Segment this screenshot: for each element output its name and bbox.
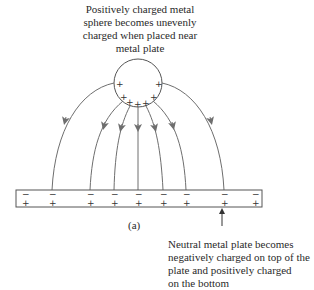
svg-text:+: +	[111, 198, 119, 208]
svg-text:+: +	[126, 97, 134, 107]
svg-text:+: +	[221, 198, 229, 208]
svg-text:+: +	[22, 198, 30, 208]
svg-text:+: +	[49, 198, 57, 208]
pointer-arrow	[219, 208, 225, 226]
svg-text:+: +	[252, 198, 260, 208]
svg-text:+: +	[87, 198, 95, 208]
svg-text:+: +	[155, 79, 163, 89]
caption-line: negatively charged on top of the	[168, 251, 314, 264]
caption-line: Neutral metal plate becomes	[168, 238, 314, 251]
svg-text:+: +	[183, 198, 191, 208]
svg-text:+: +	[150, 92, 158, 102]
plate-caption: Neutral metal plate becomes negatively c…	[168, 238, 314, 290]
figure-label: (a)	[128, 219, 140, 232]
svg-text:+: +	[160, 198, 168, 208]
caption-line: on the bottom	[168, 277, 314, 290]
svg-text:+: +	[135, 198, 143, 208]
svg-text:+: +	[116, 79, 124, 89]
caption-line: plate and positively charged	[168, 264, 314, 277]
